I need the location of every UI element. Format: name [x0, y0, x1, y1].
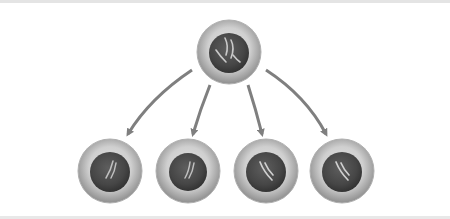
daughter-cell-3	[234, 139, 298, 203]
cell-division-diagram	[0, 0, 450, 219]
arrow-to-daughter-2	[193, 85, 210, 134]
daughter-cell-2	[156, 139, 220, 203]
arrow-to-daughter-1	[128, 70, 192, 134]
arrow-to-daughter-4	[266, 70, 326, 134]
daughter-cell-4	[310, 139, 374, 203]
diagram-canvas: Cell division: one parent cell produces …	[0, 0, 450, 219]
daughter-cell-1	[78, 139, 142, 203]
parent-cell	[197, 20, 261, 84]
arrow-to-daughter-3	[248, 85, 262, 134]
parent-nucleus	[209, 33, 249, 73]
